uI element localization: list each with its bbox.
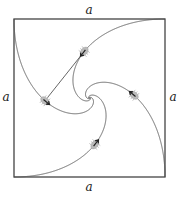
- pursuit-diagram: a a a a: [0, 0, 185, 200]
- pursuit-curve-bottom-left: [14, 95, 106, 177]
- label-bottom-side: a: [85, 180, 92, 194]
- pursuit-curve-top-right: [73, 19, 165, 101]
- label-top-side: a: [85, 3, 92, 17]
- label-left-side: a: [2, 90, 9, 104]
- label-right-side: a: [169, 90, 176, 104]
- sight-lines: [45, 52, 84, 101]
- sight-line: [45, 52, 84, 101]
- pursuit-curves: [14, 19, 165, 177]
